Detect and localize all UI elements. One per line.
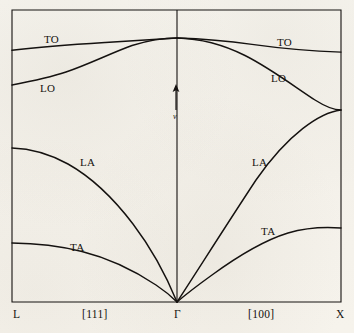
branch-label-LO-right: LO — [271, 73, 286, 84]
dispersion-plot-svg — [0, 0, 354, 333]
branch-label-TO-right: TO — [277, 37, 292, 48]
frequency-axis-label: ν — [173, 113, 177, 121]
frequency-axis-arrow — [173, 84, 180, 110]
axis-tick-label-X: X — [336, 309, 345, 321]
branch-curve-LO-right — [177, 38, 341, 110]
branch-curve-LA-left — [12, 148, 177, 302]
branch-label-LA-left: LA — [80, 157, 95, 168]
branch-label-TA-left: TA — [70, 242, 84, 253]
branch-label-LO-left: LO — [40, 83, 55, 94]
branch-label-LA-right: LA — [252, 157, 267, 168]
axis-tick-label-gamma: Γ — [174, 309, 181, 321]
axis-tick-label-111: [111] — [82, 309, 108, 321]
branch-label-TO-left: TO — [44, 34, 59, 45]
branch-curve-LO-left — [12, 38, 177, 85]
branch-curve-LA-right — [177, 110, 341, 302]
phonon-dispersion-figure: ν TO LO LA TA TO LO LA TA L [111] Γ [100… — [0, 0, 354, 333]
axis-tick-label-100: [100] — [248, 309, 274, 321]
branch-label-TA-right: TA — [261, 226, 275, 237]
axis-tick-label-L: L — [13, 309, 20, 321]
